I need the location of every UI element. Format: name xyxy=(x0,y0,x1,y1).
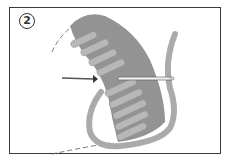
dashed-outline-top xyxy=(52,28,70,52)
arrow-right-icon xyxy=(62,75,98,83)
needle-icon xyxy=(118,77,174,80)
stitch-diagram xyxy=(0,0,228,164)
step-number-badge: 2 xyxy=(19,13,35,29)
